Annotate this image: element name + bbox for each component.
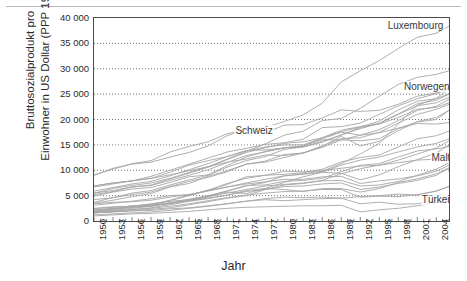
series-label-luxembourg: Luxembourg bbox=[387, 20, 445, 31]
x-tick-label: 2001 bbox=[420, 219, 432, 259]
x-tick-label: 1977 bbox=[268, 219, 280, 259]
y-tick-label: 35 000 bbox=[37, 38, 89, 48]
y-tick-label: 5 000 bbox=[37, 191, 89, 201]
x-tick-label: 1995 bbox=[382, 219, 394, 259]
x-axis-ticks: 1950195319561959196219651968197119741977… bbox=[93, 222, 450, 262]
x-tick-label: 1968 bbox=[211, 219, 223, 259]
x-tick-label: 1983 bbox=[306, 219, 318, 259]
plot-area: LuxembourgNorwegenSchweizMaltaTürkei bbox=[93, 17, 450, 222]
y-axis-ticks: 05 00010 00015 00020 00025 00030 00035 0… bbox=[33, 0, 89, 281]
x-tick-label: 1986 bbox=[325, 219, 337, 259]
series-label-tuerkei: Türkei bbox=[421, 194, 450, 205]
series-line bbox=[94, 89, 449, 186]
x-tick-label: 1953 bbox=[116, 219, 128, 259]
x-tick-label: 1971 bbox=[230, 219, 242, 259]
series-label-malta: Malta bbox=[431, 152, 451, 163]
series-label-norwegen: Norwegen bbox=[403, 81, 450, 92]
y-tick-label: 25 000 bbox=[37, 89, 89, 99]
y-tick-label: 20 000 bbox=[37, 115, 89, 125]
x-tick-label: 1998 bbox=[401, 219, 413, 259]
chart-figure: Bruttosozialprodukt pro Einwohner in US … bbox=[0, 0, 467, 281]
y-tick-label: 40 000 bbox=[37, 13, 89, 23]
x-tick-label: 1992 bbox=[363, 219, 375, 259]
x-tick-label: 1956 bbox=[135, 219, 147, 259]
series-lines bbox=[94, 18, 449, 221]
series-label-schweiz: Schweiz bbox=[234, 125, 273, 136]
x-tick-label: 1965 bbox=[192, 219, 204, 259]
x-tick-label: 1962 bbox=[173, 219, 185, 259]
x-tick-label: 2004 bbox=[439, 219, 451, 259]
x-tick-label: 1959 bbox=[154, 219, 166, 259]
x-tick-label: 1989 bbox=[344, 219, 356, 259]
series-line bbox=[94, 199, 449, 216]
x-tick-label: 1974 bbox=[249, 219, 261, 259]
x-tick-label: 1950 bbox=[97, 219, 109, 259]
x-tick-label: 1980 bbox=[287, 219, 299, 259]
x-axis-title: Jahr bbox=[0, 259, 467, 273]
y-tick-label: 30 000 bbox=[37, 64, 89, 74]
y-tick-label: 0 bbox=[37, 216, 89, 226]
y-tick-label: 15 000 bbox=[37, 140, 89, 150]
series-line bbox=[94, 94, 449, 191]
y-tick-label: 10 000 bbox=[37, 165, 89, 175]
